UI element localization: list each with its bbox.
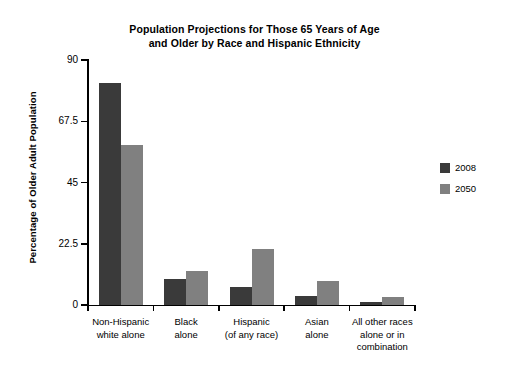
y-axis-title: Percentage of Older Adult Population [27,53,38,303]
bar-0-0 [99,83,121,305]
y-axis-tick-label: 22.5 [40,239,78,249]
legend-label-2050: 2050 [455,184,476,194]
x-axis-tick [153,305,155,311]
x-axis-category-label-line: All other races [322,316,442,329]
legend-swatch-2008 [440,163,450,173]
y-axis-tick-label-text: 22.5 [40,239,78,249]
bar-0-3 [295,296,317,305]
legend-swatch-2050 [440,184,450,194]
y-axis-tick-label-text: 67.5 [40,116,78,126]
chart-title: Population Projections for Those 65 Year… [0,22,509,50]
bar-chart-figure: Population Projections for Those 65 Year… [0,0,509,371]
bar-1-1 [186,271,208,305]
x-axis-category-label-4: All other racesalone or incombination [322,316,442,354]
y-axis-tick-label-text: 90 [40,55,78,65]
y-axis-tick-label-text: 0 [40,300,78,310]
y-axis-tick [81,121,87,123]
y-axis-tick [81,243,87,245]
bar-1-3 [317,281,339,305]
x-axis-tick [349,305,351,311]
bar-0-1 [164,279,186,305]
y-axis-tick-label: 90 [40,55,78,65]
x-axis-category-label-line: alone or in [322,329,442,342]
x-axis-tick [218,305,220,311]
y-axis-tick-label: 45 [40,178,78,188]
bar-1-2 [252,249,274,305]
x-axis-tick [87,305,89,311]
bar-1-4 [382,297,404,305]
y-axis-tick [81,304,87,306]
bar-0-2 [230,287,252,306]
chart-title-line-2: and Older by Race and Hispanic Ethnicity [0,36,509,50]
y-axis-tick-label-text: 45 [40,178,78,188]
bar-1-0 [121,145,143,305]
y-axis-tick [81,182,87,184]
x-axis-category-label-line: combination [322,341,442,354]
plot-area [88,60,415,305]
x-axis-tick [283,305,285,311]
legend-label-2008: 2008 [455,163,476,173]
chart-title-line-1: Population Projections for Those 65 Year… [129,23,379,35]
y-axis-tick-label: 0 [40,300,78,310]
y-axis-tick-label: 67.5 [40,116,78,126]
y-axis-tick [81,59,87,61]
bar-0-4 [360,302,382,305]
x-axis-tick [414,305,416,311]
